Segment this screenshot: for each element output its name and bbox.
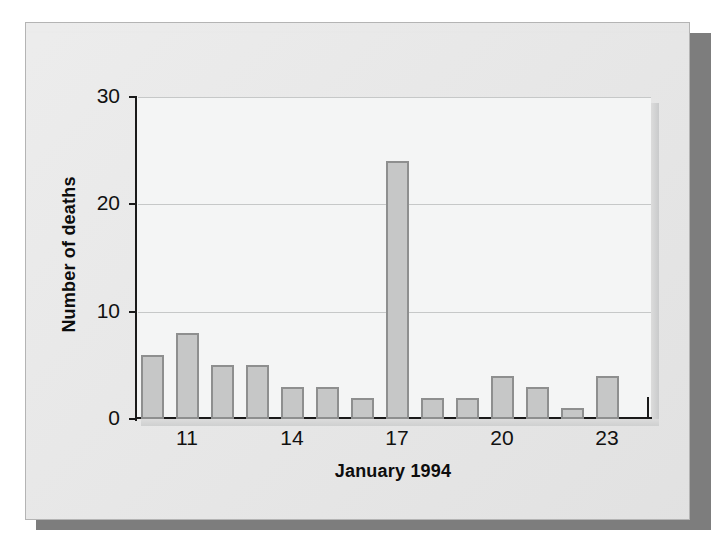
bar-jan-16 — [351, 398, 374, 419]
bar-jan-12 — [211, 365, 234, 419]
x-tick-label-11: 11 — [157, 427, 217, 448]
figure-drop-shadow-right — [690, 33, 711, 530]
bar-jan-10 — [141, 355, 164, 419]
x-tick-label-14: 14 — [262, 427, 322, 448]
bar-jan-23 — [596, 376, 619, 419]
bar-jan-21 — [526, 387, 549, 419]
figure-drop-shadow-bottom — [36, 519, 711, 530]
bar-jan-14 — [281, 387, 304, 419]
bar-jan-22 — [561, 408, 584, 419]
figure-frame: 0102030 1114172023 January 1994 Number o… — [25, 22, 690, 520]
bar-jan-13 — [246, 365, 269, 419]
bar-jan-15 — [316, 387, 339, 419]
bar-jan-11 — [176, 333, 199, 419]
bar-jan-20 — [491, 376, 514, 419]
x-tick-label-23: 23 — [577, 427, 637, 448]
x-tick-label-17: 17 — [367, 427, 427, 448]
bar-jan-17 — [386, 161, 409, 419]
bar-jan-19 — [456, 398, 479, 419]
y-axis-title: Number of deaths — [59, 125, 80, 385]
bar-chart: 0102030 1114172023 January 1994 Number o… — [26, 23, 690, 520]
bar-jan-18 — [421, 398, 444, 419]
x-axis-title: January 1994 — [135, 461, 651, 482]
x-tick-label-20: 20 — [472, 427, 532, 448]
